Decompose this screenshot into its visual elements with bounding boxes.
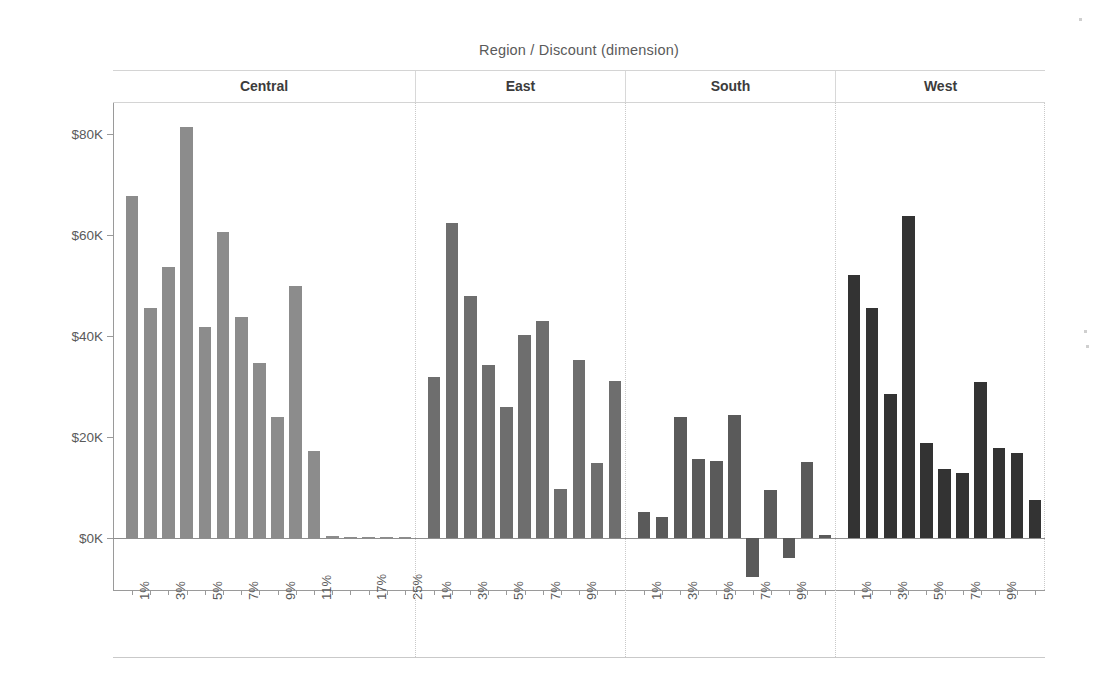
bar[interactable] [884, 394, 897, 538]
x-axis-tick [698, 590, 699, 595]
panel-header-west: West [835, 71, 1045, 102]
bar[interactable] [866, 308, 879, 538]
bar[interactable] [217, 232, 230, 538]
x-axis-tick [1035, 590, 1036, 595]
x-axis-tick [506, 590, 507, 595]
bar[interactable] [638, 512, 651, 538]
bar[interactable] [199, 327, 212, 538]
bar[interactable] [180, 127, 193, 538]
bar[interactable] [591, 463, 604, 538]
bar[interactable] [692, 459, 705, 538]
bar[interactable] [764, 490, 777, 538]
x-axis-tick [579, 590, 580, 595]
bar[interactable] [819, 535, 832, 538]
x-axis-tick [470, 590, 471, 595]
x-axis-tick [452, 590, 453, 595]
bar[interactable] [500, 407, 513, 538]
x-axis-tick [525, 590, 526, 595]
bar[interactable] [1011, 453, 1024, 538]
x-axis-tick [716, 590, 717, 595]
x-axis-tick [168, 590, 169, 595]
y-axis-label: $0K [43, 531, 103, 546]
bar[interactable] [783, 538, 796, 558]
bar[interactable] [289, 286, 302, 538]
bar[interactable] [326, 536, 339, 538]
x-axis-tick [615, 590, 616, 595]
panel-header-central: Central [113, 71, 415, 102]
x-axis-tick [735, 590, 736, 595]
bar[interactable] [235, 317, 248, 538]
x-axis-tick [296, 590, 297, 595]
bar[interactable] [308, 451, 321, 538]
bar[interactable] [1029, 500, 1042, 538]
bar[interactable] [609, 381, 622, 538]
y-axis-title: Profit [0, 278, 1, 310]
profit-by-region-discount-chart: Region / Discount (dimension) CentralEas… [0, 0, 1100, 681]
bar[interactable] [573, 360, 586, 538]
bar[interactable] [746, 538, 759, 577]
bar[interactable] [728, 415, 741, 538]
bar[interactable] [446, 223, 459, 538]
bar[interactable] [464, 296, 477, 538]
bar[interactable] [399, 537, 412, 539]
bar[interactable] [253, 363, 266, 538]
x-axis-tick [680, 590, 681, 595]
bar[interactable] [801, 462, 814, 538]
bar[interactable] [554, 489, 567, 538]
bar[interactable] [428, 377, 441, 538]
bar[interactable] [362, 537, 375, 539]
x-axis-tick [908, 590, 909, 595]
x-axis-tick [981, 590, 982, 595]
x-axis-tick [488, 590, 489, 595]
bar[interactable] [518, 335, 531, 538]
panel-divider [835, 103, 836, 590]
x-axis-tick [771, 590, 772, 595]
x-axis-tick [543, 590, 544, 595]
panel-divider [625, 103, 626, 590]
x-axis-tick [314, 590, 315, 595]
x-axis-tick [854, 590, 855, 595]
y-axis-label: $40K [43, 329, 103, 344]
scan-artifact [1086, 345, 1089, 348]
x-axis-bottom-rule [113, 657, 1045, 658]
bar[interactable] [902, 216, 915, 538]
bar[interactable] [848, 275, 861, 538]
bar[interactable] [126, 196, 139, 538]
x-axis-tick [259, 590, 260, 595]
bar[interactable] [656, 517, 669, 538]
bar[interactable] [162, 267, 175, 538]
bar[interactable] [974, 382, 987, 538]
x-axis-tick [644, 590, 645, 595]
bar[interactable] [271, 417, 284, 538]
bar[interactable] [710, 461, 723, 538]
panel-divider [415, 103, 416, 590]
x-axis-tick [945, 590, 946, 595]
x-axis-tick [872, 590, 873, 595]
bar[interactable] [938, 469, 951, 538]
x-axis-tick [205, 590, 206, 595]
x-axis-tick [753, 590, 754, 595]
panel-header-east: East [415, 71, 625, 102]
bar[interactable] [344, 537, 357, 539]
x-axis-tick [926, 590, 927, 595]
bar[interactable] [380, 537, 393, 539]
scan-artifact [1084, 330, 1087, 333]
bar[interactable] [956, 473, 969, 538]
x-axis-tick [132, 590, 133, 595]
bar[interactable] [482, 365, 495, 538]
x-axis-tick [662, 590, 663, 595]
bar[interactable] [993, 448, 1006, 538]
bar[interactable] [674, 417, 687, 538]
bar[interactable] [536, 321, 549, 538]
x-axis-panel-separator [625, 590, 626, 657]
plot-area [113, 103, 1045, 590]
x-axis-label: 11% [319, 575, 334, 600]
bar[interactable] [144, 308, 157, 538]
x-axis-tick [789, 590, 790, 595]
x-axis-tick [405, 590, 406, 595]
x-axis-tick [890, 590, 891, 595]
x-axis-tick [278, 590, 279, 595]
x-axis-panel-separator [415, 590, 416, 657]
x-axis-tick [999, 590, 1000, 595]
bar[interactable] [920, 443, 933, 538]
